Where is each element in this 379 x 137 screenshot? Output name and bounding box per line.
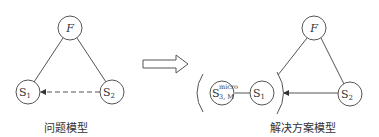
transform-arrow-icon [143, 55, 188, 73]
edge-f-s1group [278, 38, 307, 75]
left-bracket [197, 74, 203, 112]
node-s3m-sub: 3, M [219, 93, 234, 101]
node-f-label: F [309, 22, 318, 35]
edge-f-s1 [34, 38, 63, 82]
node-f-label: F [65, 22, 74, 35]
node-s3m-sup: micro [219, 83, 238, 91]
solution-model-caption: 解决方案模型 [270, 119, 336, 135]
su-field-diagram: F S1 S2 F S micro 3, M S1 S2 [0, 0, 379, 137]
edge-f-s2 [321, 38, 344, 84]
solution-model: F S micro 3, M S1 S2 [197, 16, 362, 114]
right-bracket [277, 72, 284, 114]
problem-model-caption: 问题模型 [44, 119, 88, 135]
problem-model: F S1 S2 [16, 16, 124, 104]
edge-f-s2 [77, 38, 106, 82]
